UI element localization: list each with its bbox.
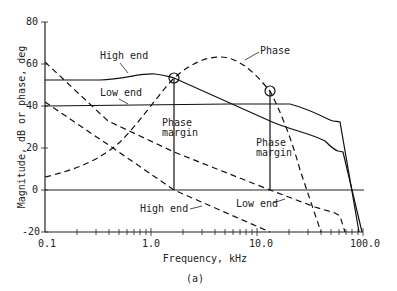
figure-caption: (a) [186, 273, 204, 284]
label-phase: Phase [260, 45, 290, 56]
arrow-high-end-bottom [190, 206, 202, 209]
label-phase-margin-1b: margin [162, 127, 198, 138]
y-tick-0: 0 [32, 184, 38, 195]
magnitude-high-end-curve [45, 74, 362, 232]
x-tick-0.1: 0.1 [38, 238, 56, 249]
y-tick-neg20: -20 [22, 226, 40, 237]
x-tick-1.0: 1.0 [142, 238, 160, 249]
x-axis-title: Frequency, kHz [163, 253, 247, 264]
y-tick-40: 40 [26, 100, 38, 111]
bode-plot: 80 60 40 20 0 -20 0.1 1.0 10.0 100.0 [0, 0, 397, 291]
arrow-high-end-top [120, 63, 128, 73]
y-tick-80: 80 [26, 16, 38, 27]
label-low-end-bottom: Low end [236, 198, 278, 209]
label-high-end-top: High end [100, 50, 148, 61]
arrow-low-end-top [119, 99, 128, 104]
arrow-phase [245, 52, 259, 60]
label-low-end-top: Low end [100, 87, 142, 98]
y-axis-title: Magnitude, dB or phase, deg [16, 46, 27, 209]
label-phase-margin-2b: margin [256, 147, 292, 158]
magnitude-low-end-curve [45, 104, 359, 232]
x-tick-10.0: 10.0 [249, 238, 273, 249]
label-high-end-bottom: High end [140, 203, 188, 214]
y-tick-60: 60 [26, 58, 38, 69]
x-tick-100.0: 100.0 [350, 238, 380, 249]
y-tick-20: 20 [26, 142, 38, 153]
